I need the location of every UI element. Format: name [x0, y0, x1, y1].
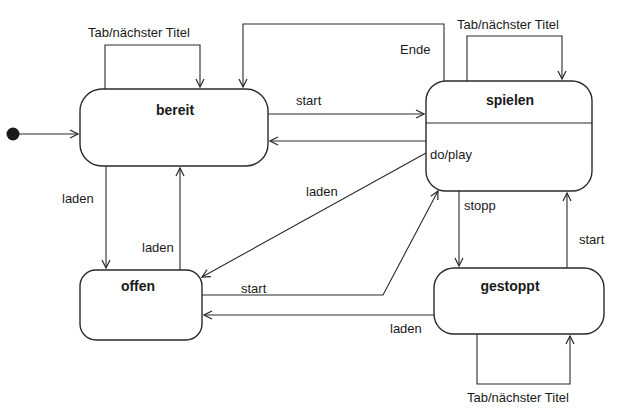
transition-gestoppt-self	[477, 334, 570, 384]
label-laden-spielen-offen: laden	[306, 184, 338, 199]
transition-laden-spielen-offen	[202, 153, 426, 277]
label-start-bereit-spielen: start	[296, 93, 322, 108]
state-bereit	[80, 89, 268, 166]
state-bereit-title: bereit	[156, 102, 194, 118]
transition-bereit-self	[105, 45, 200, 89]
label-bereit-self: Tab/nächster Titel	[88, 25, 190, 40]
label-laden-offen-bereit: laden	[142, 240, 174, 255]
state-gestoppt-title: gestoppt	[480, 278, 539, 294]
transition-spielen-self	[467, 36, 562, 81]
label-spielen-self: Tab/nächster Titel	[457, 17, 559, 32]
initial-state-dot	[7, 128, 20, 141]
state-spielen-activity: do/play	[430, 147, 472, 162]
label-stopp: stopp	[464, 198, 496, 213]
transition-start-offen-spielen	[202, 191, 438, 295]
label-start-gestoppt-spielen: start	[579, 232, 605, 247]
state-diagram: bereit spielen do/play offen gestoppt Ta…	[0, 0, 617, 411]
label-gestoppt-self: Tab/nächster Titel	[467, 390, 569, 405]
label-start-offen-spielen: start	[241, 281, 267, 296]
label-laden-bereit-offen: laden	[62, 191, 94, 206]
label-laden-gestoppt-offen: laden	[390, 321, 422, 336]
label-ende: Ende	[400, 42, 430, 57]
state-offen-title: offen	[121, 278, 155, 294]
state-spielen-title: spielen	[486, 92, 534, 108]
